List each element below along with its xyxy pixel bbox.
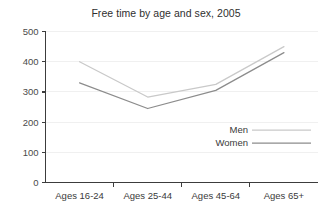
- y-axis-tick-label: 200: [23, 117, 39, 128]
- legend-label-men: Men: [230, 124, 248, 135]
- x-axis-ticks: Ages 16-24Ages 25-44Ages 45-64Ages 65+: [55, 183, 304, 201]
- chart-axes: [46, 32, 319, 183]
- x-axis-tick-label: Ages 45-64: [192, 190, 241, 201]
- series-line-men: [80, 47, 284, 97]
- chart-legend: MenWomen: [215, 124, 311, 148]
- legend-label-women: Women: [215, 137, 248, 148]
- x-axis-tick-label: Ages 16-24: [55, 190, 104, 201]
- y-axis-tick-label: 100: [23, 147, 39, 158]
- gridlines: [46, 32, 319, 153]
- data-series: [80, 47, 284, 109]
- x-axis-tick-label: Ages 25-44: [123, 190, 172, 201]
- y-axis-ticks: 0100200300400500: [23, 26, 46, 188]
- series-line-women: [80, 53, 284, 109]
- chart-container: Free time by age and sex, 2005 010020030…: [0, 0, 332, 215]
- line-chart-plot: 0100200300400500 Ages 16-24Ages 25-44Age…: [0, 0, 332, 215]
- y-axis-tick-label: 500: [23, 26, 39, 37]
- y-axis-tick-label: 400: [23, 56, 39, 67]
- y-axis-tick-label: 300: [23, 86, 39, 97]
- y-axis-tick-label: 0: [33, 177, 38, 188]
- x-axis-tick-label: Ages 65+: [264, 190, 305, 201]
